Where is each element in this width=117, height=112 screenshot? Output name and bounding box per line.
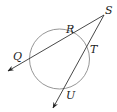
circle — [30, 29, 90, 89]
label-t: T — [90, 43, 99, 56]
secant-diagram: S R Q T U — [0, 0, 117, 112]
label-s: S — [105, 4, 113, 17]
label-u: U — [66, 89, 76, 102]
label-r: R — [65, 23, 74, 36]
label-q: Q — [13, 50, 22, 63]
